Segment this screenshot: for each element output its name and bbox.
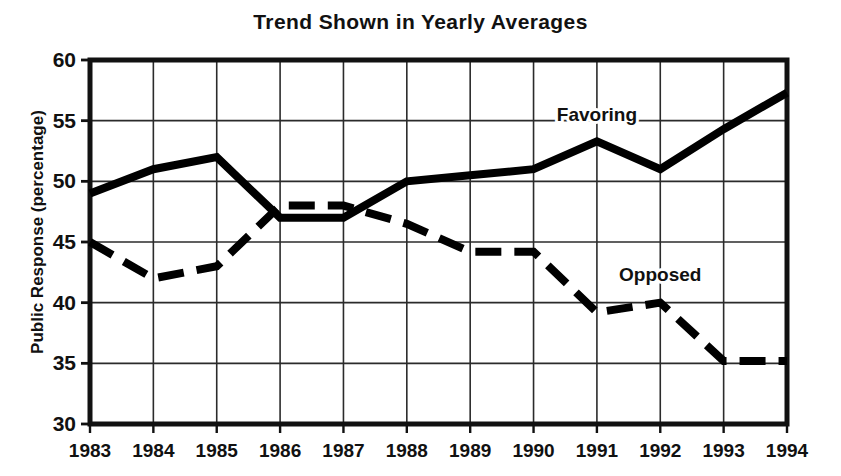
x-tick-label: 1992 [639, 440, 681, 461]
y-axis-tick-labels: 30354045505560 [53, 48, 77, 435]
x-tick-label: 1991 [576, 440, 619, 461]
x-tick-label: 1984 [132, 440, 175, 461]
plot-area: 30354045505560 1983198419851986198719881… [0, 0, 841, 476]
series-annotation-opposed: Opposed [619, 264, 701, 285]
data-series-lines [90, 93, 787, 361]
y-tick-label: 60 [53, 48, 76, 71]
chart-container: Trend Shown in Yearly Averages Public Re… [0, 0, 841, 476]
x-tick-label: 1986 [259, 440, 301, 461]
x-tick-label: 1988 [386, 440, 428, 461]
series-annotation-labels: FavoringFavoringOpposedOpposed [557, 104, 702, 285]
x-tick-label: 1983 [69, 440, 111, 461]
y-tick-label: 35 [53, 351, 77, 374]
x-axis-tick-labels: 1983198419851986198719881989199019911992… [69, 440, 809, 461]
x-tick-label: 1989 [449, 440, 491, 461]
y-tick-label: 45 [53, 230, 77, 253]
series-line-favoring [90, 93, 787, 218]
x-tick-label: 1990 [512, 440, 554, 461]
x-tick-label: 1994 [766, 440, 809, 461]
x-tick-label: 1985 [196, 440, 239, 461]
x-tick-label: 1993 [702, 440, 744, 461]
y-tick-label: 40 [53, 291, 76, 314]
y-tick-label: 55 [53, 109, 77, 132]
plot-frame [81, 60, 787, 433]
y-tick-label: 30 [53, 412, 76, 435]
x-tick-label: 1987 [322, 440, 364, 461]
y-tick-label: 50 [53, 169, 76, 192]
series-annotation-favoring: Favoring [557, 104, 637, 125]
